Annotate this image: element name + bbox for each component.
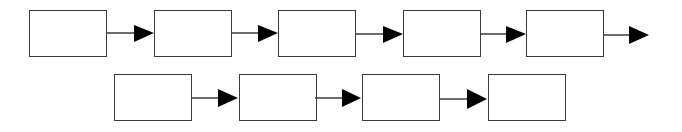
arrow-icon: [480, 26, 526, 43]
arrow-icon: [191, 89, 238, 107]
arrow-icon: [315, 89, 361, 107]
arrows-layer: [0, 0, 682, 132]
arrow-icon: [439, 89, 487, 109]
arrow-icon: [107, 25, 154, 42]
arrow-icon: [231, 25, 278, 42]
trailing-arrow-icon: [603, 26, 649, 44]
arrow-icon: [355, 26, 403, 43]
